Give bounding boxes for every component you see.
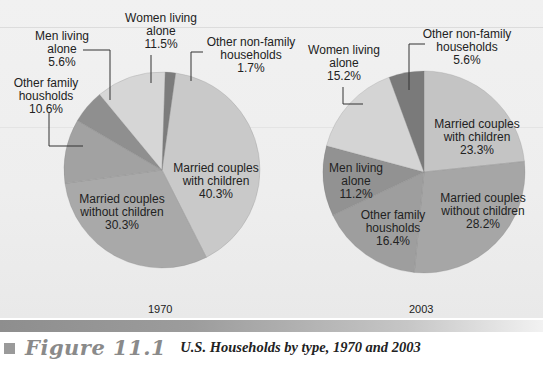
caption-text: U.S. Households by type, 1970 and 2003 xyxy=(180,339,420,356)
label-1970-women-alone: Women living alone 11.5% xyxy=(114,12,208,51)
label-2003-women-alone: Women living alone 15.2% xyxy=(302,44,386,83)
year-label-1970: 1970 xyxy=(148,303,172,315)
label-1970-other-family: Other family housholds 10.6% xyxy=(8,77,84,116)
label-1970-married-with-children: Married couples with children 40.3% xyxy=(164,162,268,201)
label-2003-other-family: Other family housholds 16.4% xyxy=(348,209,438,248)
label-1970-men-alone: Men living alone 5.6% xyxy=(26,30,98,69)
label-1970-other-nonfamily: Other non-family households 1.7% xyxy=(198,36,304,75)
caption-rule-bar xyxy=(0,320,543,332)
label-1970-married-without-children: Married couples without children 30.3% xyxy=(72,193,172,232)
label-2003-men-alone: Men living alone 11.2% xyxy=(323,162,389,201)
figure-number: Figure 11.1 xyxy=(25,335,166,360)
label-2003-married-without-children: Married couples without children 28.2% xyxy=(427,192,539,231)
caption-square-icon xyxy=(4,343,15,354)
figure-caption: Figure 11.1 U.S. Households by type, 197… xyxy=(4,334,421,360)
year-label-2003: 2003 xyxy=(409,303,433,315)
label-2003-other-nonfamily: Other non-family households 5.6% xyxy=(414,28,520,67)
label-2003-married-with-children: Married couples with children 23.3% xyxy=(425,118,529,157)
